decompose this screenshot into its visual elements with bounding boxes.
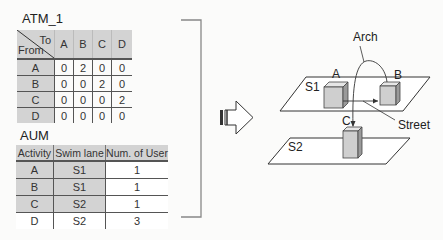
plane-s2-label: S2 [288,140,303,154]
arch-label: Arch [353,30,378,44]
bracket-icon [181,20,201,217]
activity-box-b [380,82,400,105]
right-arrow-icon [220,101,253,134]
arch-leader-line [360,46,364,62]
activity-box-a [324,82,348,108]
street-label: Street [398,118,430,132]
box-a-label: A [332,67,340,81]
activity-box-c [343,127,362,158]
box-b-label: B [394,68,402,82]
box-c-label: C [342,114,351,128]
plane-s1-label: S1 [305,80,320,94]
